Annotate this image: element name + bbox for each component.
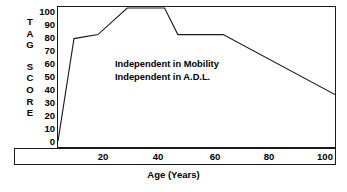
y-tick-label: 10 xyxy=(27,124,55,134)
x-axis-band xyxy=(14,148,336,165)
x-tick-label: 60 xyxy=(202,150,228,163)
y-tick-label: 100 xyxy=(27,7,55,17)
annotation-independent-mobility: Independent in Mobility xyxy=(115,58,219,71)
chart-figure: T A G S C O R E 100 90 80 70 60 50 40 30… xyxy=(0,0,347,192)
x-axis-title: Age (Years) xyxy=(0,169,347,180)
x-tick-label: 20 xyxy=(90,150,116,163)
x-tick-label: 40 xyxy=(145,150,171,163)
y-tick-label: 30 xyxy=(27,98,55,108)
y-tick-label: 80 xyxy=(27,33,55,43)
y-tick-label: 50 xyxy=(27,72,55,82)
x-tick-label: 100 xyxy=(312,150,338,163)
y-tick-label: 40 xyxy=(27,85,55,95)
annotation-independent-adl: Independent in A.D.L. xyxy=(115,71,210,84)
x-tick-label: 80 xyxy=(256,150,282,163)
y-tick-label: 20 xyxy=(27,111,55,121)
y-tick-label: 70 xyxy=(27,46,55,56)
y-tick-label: 60 xyxy=(27,59,55,69)
y-tick-label: 0 xyxy=(27,137,55,147)
y-tick-label: 90 xyxy=(27,20,55,30)
